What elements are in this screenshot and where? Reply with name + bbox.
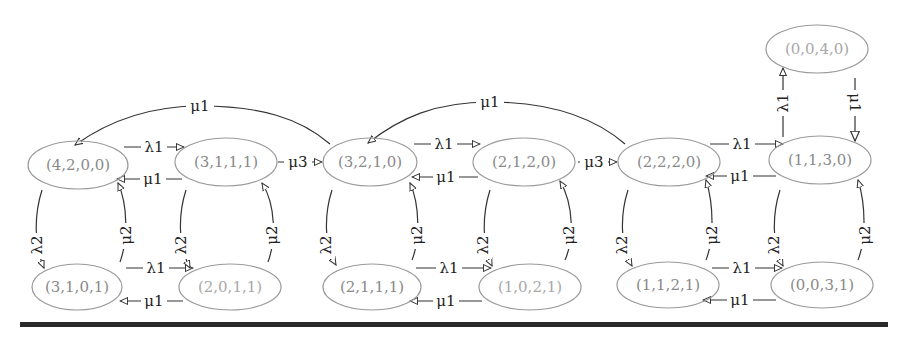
edge-1021-to-2120: μ2	[560, 181, 578, 260]
edge-3210-to-4200: μ1	[75, 97, 330, 145]
edge-label-mu1: μ1	[436, 292, 455, 310]
node-0031: (0,0,3,1)	[771, 262, 873, 308]
edge-1130-to-0040: λ1	[774, 68, 792, 137]
edge-2111-to-3210: μ2	[408, 183, 426, 260]
node-3111: (3,1,1,1)	[175, 138, 277, 186]
node-label: (0,0,3,1)	[790, 276, 854, 294]
edge-0031-to-1130: μ2	[856, 180, 874, 260]
edge-label-mu3: μ3	[288, 153, 307, 171]
edge-label-mu2: μ2	[408, 225, 426, 244]
node-2111: (2,1,1,1)	[323, 264, 421, 310]
edge-label-lambda2: λ2	[765, 235, 783, 254]
edge-3111-to-4200: μ1	[117, 170, 182, 188]
node-1121: (1,1,2,1)	[617, 262, 719, 308]
edge-3101-to-4200: μ2	[117, 183, 135, 262]
node-label: (3,1,0,1)	[45, 278, 109, 296]
node-label: (0,0,4,0)	[785, 40, 849, 58]
edge-label-lambda1: λ1	[732, 135, 751, 153]
edge-label-mu2: μ2	[703, 225, 721, 244]
node-4200: (4,2,0,0)	[28, 141, 128, 189]
edge-label-lambda1: λ1	[434, 135, 453, 153]
node-1021: (1,0,2,1)	[479, 264, 581, 310]
edge-2011-to-3111: μ2	[262, 183, 281, 262]
edge-1130-to-0031: λ2	[765, 190, 783, 266]
edge-2120-to-2220: μ3	[578, 153, 617, 171]
node-label: (1,1,3,0)	[788, 151, 852, 169]
node-0040: (0,0,4,0)	[766, 25, 868, 73]
edge-label-mu1: μ1	[144, 292, 163, 310]
edge-label-lambda2: λ2	[474, 235, 492, 254]
edge-label-mu1: μ1	[190, 97, 209, 115]
edge-0031-to-1121: μ1	[703, 291, 776, 309]
edge-label-lambda1: λ1	[774, 93, 792, 112]
node-label: (2,1,1,1)	[340, 278, 404, 296]
edge-2220-to-3210: μ1	[368, 93, 625, 144]
edge-label-mu2: μ2	[560, 225, 578, 244]
edge-3111-to-3210: μ3	[278, 153, 322, 171]
node-label: (1,1,2,1)	[636, 276, 700, 294]
edge-2220-to-1130: λ1	[710, 135, 783, 153]
edge-1021-to-2111: μ1	[410, 292, 482, 310]
edge-label-lambda2: λ2	[613, 235, 631, 254]
edge-label-lambda1: λ1	[144, 138, 163, 156]
edge-3210-to-2120: λ1	[414, 135, 480, 153]
edge-3101-to-2011: λ1	[126, 259, 193, 277]
node-label: (2,2,2,0)	[637, 153, 701, 171]
edge-1121-to-0031: λ1	[712, 259, 782, 277]
node-2011: (2,0,1,1)	[179, 264, 281, 310]
edge-label-lambda2: λ2	[28, 235, 46, 254]
edge-label-mu1: μ1	[846, 93, 864, 112]
edge-label-mu1: μ1	[436, 168, 455, 186]
edge-label-mu1: μ1	[143, 170, 162, 188]
edge-2220-to-1121: λ2	[613, 190, 632, 266]
bottom-rule	[20, 322, 888, 327]
edge-3210-to-2111: λ2	[317, 190, 336, 265]
edge-label-mu1: μ1	[730, 291, 749, 309]
edge-label-mu1: μ1	[730, 167, 749, 185]
edge-4200-to-3111: λ1	[124, 138, 184, 156]
edge-2111-to-1021: λ1	[416, 259, 491, 277]
edge-label-mu3: μ3	[584, 153, 603, 171]
edge-1121-to-2220: μ2	[703, 180, 721, 260]
edge-label-lambda2: λ2	[317, 235, 335, 254]
edge-label-lambda1: λ1	[439, 259, 458, 277]
state-diagram: μ1 μ1 λ1 μ1 λ1 μ1 λ2 μ2 λ2	[0, 0, 901, 338]
node-label: (2,1,2,0)	[492, 153, 556, 171]
edge-2120-to-3210: μ1	[412, 168, 478, 186]
node-2220: (2,2,2,0)	[618, 138, 720, 186]
node-1130: (1,1,3,0)	[769, 136, 871, 184]
node-3210: (3,2,1,0)	[323, 138, 417, 186]
edge-label-mu1: μ1	[480, 93, 499, 111]
node-label: (3,1,1,1)	[194, 153, 258, 171]
node-3101: (3,1,0,1)	[32, 264, 122, 310]
node-2120: (2,1,2,0)	[473, 138, 575, 186]
edge-4200-to-3101: λ2	[28, 190, 46, 268]
edge-label-lambda2: λ2	[172, 235, 190, 254]
edge-1130-to-2220: μ1	[706, 167, 776, 185]
edge-2120-to-1021: λ2	[474, 190, 492, 266]
edge-0040-to-1130: μ1	[846, 78, 864, 141]
edge-label-mu2: μ2	[117, 225, 135, 244]
edge-label-lambda1: λ1	[146, 259, 165, 277]
edge-label-lambda1: λ1	[732, 259, 751, 277]
edge-label-mu2: μ2	[263, 225, 281, 244]
edge-3111-to-2011: λ2	[172, 190, 190, 268]
edge-label-mu2: μ2	[856, 225, 874, 244]
node-label: (4,2,0,0)	[46, 156, 110, 174]
node-label: (3,2,1,0)	[338, 153, 402, 171]
node-label: (2,0,1,1)	[198, 278, 262, 296]
node-label: (1,0,2,1)	[498, 278, 562, 296]
edge-2011-to-3101: μ1	[120, 292, 183, 310]
